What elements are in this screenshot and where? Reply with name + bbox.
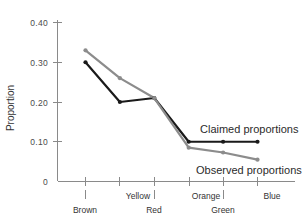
y-tick-label-010: 0.10 <box>30 137 48 147</box>
x-label-orange: Orange <box>192 191 221 201</box>
series-line-observed <box>86 50 258 159</box>
data-point-observed-green <box>221 150 225 154</box>
data-point-claimed-yellow <box>118 100 122 104</box>
x-label-yellow: Yellow <box>126 191 151 201</box>
data-point-observed-yellow <box>118 76 122 80</box>
y-tick-label-020: 0.20 <box>30 98 48 108</box>
chart-container: Proportion 0.40 0.30 0.20 0.10 0 <box>0 0 303 224</box>
y-tick-label-030: 0.30 <box>30 58 48 68</box>
series-layer <box>83 48 259 162</box>
data-point-claimed-blue <box>255 140 259 144</box>
y-tick-label-0: 0 <box>43 177 48 187</box>
data-point-observed-blue <box>255 158 259 162</box>
y-tick-label-040: 0.40 <box>30 18 48 28</box>
data-point-claimed-orange <box>187 140 191 144</box>
x-label-blue: Blue <box>263 191 280 201</box>
x-label-green: Green <box>211 205 235 215</box>
y-axis-title: Proportion <box>5 85 16 131</box>
data-point-observed-brown <box>83 48 87 52</box>
data-point-observed-orange <box>187 146 191 150</box>
x-label-brown: Brown <box>73 205 97 215</box>
x-label-red: Red <box>146 205 162 215</box>
data-point-claimed-green <box>221 140 225 144</box>
annotation-claimed: Claimed proportions <box>200 123 299 135</box>
annotation-observed: Observed proportions <box>196 164 302 176</box>
data-point-claimed-brown <box>83 60 87 64</box>
data-point-observed-red <box>152 96 156 100</box>
proportion-line-chart: Proportion 0.40 0.30 0.20 0.10 0 <box>0 0 303 224</box>
